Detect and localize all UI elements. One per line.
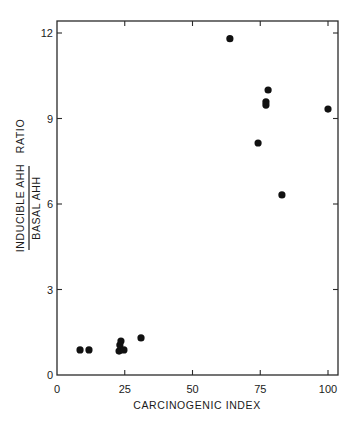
x-axis-tick-labels: 0255075100 (54, 383, 337, 395)
data-point (262, 102, 269, 109)
data-point (226, 35, 233, 42)
y-axis-title-numerator: INDUCIBLE AHH (14, 164, 26, 252)
y-axis-title: INDUCIBLE AHH BASAL AHH RATIO (14, 119, 42, 252)
plot-border (57, 21, 338, 375)
data-point (137, 334, 144, 341)
data-point (254, 139, 261, 146)
x-tick-label: 0 (54, 383, 60, 395)
data-point (278, 191, 285, 198)
y-tick-label: 6 (47, 198, 53, 210)
y-axis-title-suffix: RATIO (14, 119, 26, 153)
y-axis-tick-labels: 036912 (41, 27, 53, 381)
data-point (85, 346, 92, 353)
x-tick-label: 100 (319, 383, 337, 395)
y-axis-title-denominator: BASAL AHH (30, 176, 42, 239)
y-axis-ticks (57, 33, 338, 290)
plot-frame (57, 21, 338, 375)
x-axis-ticks (125, 21, 328, 375)
y-tick-label: 0 (47, 369, 53, 381)
data-point (324, 105, 331, 112)
y-tick-label: 3 (47, 284, 53, 296)
x-tick-label: 50 (186, 383, 198, 395)
data-point (117, 337, 124, 344)
x-axis-title: CARCINOGENIC INDEX (133, 399, 260, 411)
data-point (265, 86, 272, 93)
x-tick-label: 75 (254, 383, 266, 395)
data-points (76, 35, 331, 355)
data-point (120, 346, 127, 353)
y-tick-label: 9 (47, 113, 53, 125)
x-tick-label: 25 (119, 383, 131, 395)
y-tick-label: 12 (41, 27, 53, 39)
scatter-chart: 0255075100 036912 CARCINOGENIC INDEX IND… (0, 0, 357, 428)
data-point (76, 346, 83, 353)
